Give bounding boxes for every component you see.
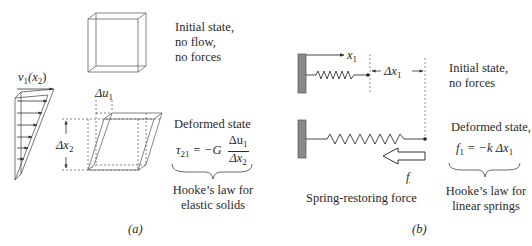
initial-state-line-3: no forces	[175, 50, 234, 65]
velocity-profile-icon	[15, 89, 54, 180]
initial-state-line-1: Initial state,	[175, 20, 234, 35]
spring-top-icon	[306, 71, 368, 79]
velocity-label: v1(x2)	[18, 70, 46, 89]
x1-axis-label: x1	[347, 48, 357, 67]
wall-bottom	[298, 120, 306, 158]
wall-top	[298, 54, 306, 93]
panel-b-label: (b)	[412, 222, 427, 237]
initial-cube-icon	[88, 13, 146, 72]
panel-a-label: (a)	[128, 222, 143, 237]
hookes-law-solids-caption: Hooke’s law for elastic solids	[168, 183, 258, 213]
deformed-block-icon	[62, 100, 162, 170]
delta-x2-label: Δx2	[56, 138, 73, 157]
delta-x1-label: Δx1	[384, 64, 401, 83]
initial-state-line-2: no flow,	[175, 35, 234, 50]
hookes-law-springs-caption: Hooke’s law for linear springs	[440, 184, 532, 214]
spring-bottom-end	[423, 137, 427, 141]
spring-top-end	[366, 73, 370, 77]
force-symbol: f	[406, 170, 409, 185]
equation-a: τ21 = −G Δu1 Δx2	[176, 134, 249, 169]
velocity-arrows	[17, 89, 53, 159]
initial-state-text-b: Initial state, no forces	[449, 61, 508, 91]
deformed-state-text-b: Deformed state,	[451, 120, 531, 135]
spring-bottom-icon	[306, 134, 425, 144]
spring-restoring-force-caption: Spring-restoring force	[306, 191, 417, 206]
brace-b-icon	[449, 163, 520, 177]
restoring-force-arrow-icon	[383, 148, 425, 164]
deformed-state-text-a: Deformed state	[174, 117, 251, 132]
delta-u1-label: Δu1	[95, 86, 113, 105]
equation-a-fraction: Δu1 Δx2	[228, 134, 249, 169]
initial-state-text-a: Initial state, no flow, no forces	[175, 20, 234, 65]
equation-b: f1 = −k Δx1	[456, 141, 513, 160]
